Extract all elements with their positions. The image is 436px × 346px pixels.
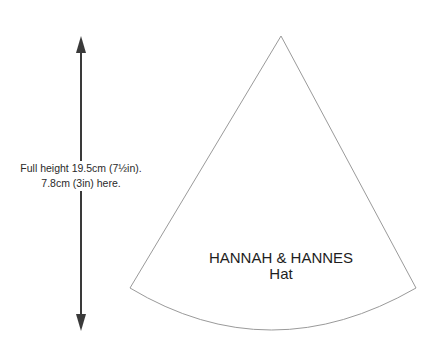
arrow-down-icon: [76, 314, 86, 331]
hat-pattern-diagram: Full height 19.5cm (7½in). 7.8cm (3in) h…: [0, 0, 436, 346]
arrow-up-icon: [76, 36, 86, 53]
height-note-line1: Full height 19.5cm (7½in).: [0, 161, 162, 176]
pattern-title-line2: Hat: [206, 266, 356, 282]
hat-wedge-outline: [130, 36, 416, 330]
pattern-title: HANNAH & HANNES Hat: [206, 250, 356, 282]
height-note: Full height 19.5cm (7½in). 7.8cm (3in) h…: [0, 161, 162, 191]
height-note-line2: 7.8cm (3in) here.: [0, 176, 162, 191]
pattern-title-line1: HANNAH & HANNES: [206, 250, 356, 266]
